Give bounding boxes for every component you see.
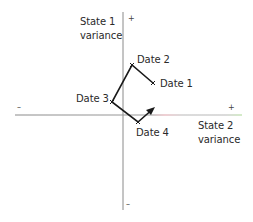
- diagram-canvas: [0, 0, 253, 222]
- vertical-axis-minus-sign: –: [126, 201, 130, 209]
- date-1-marker-icon: [151, 81, 155, 85]
- date-1-label: Date 1: [160, 77, 193, 90]
- vertical-axis-label-line2: variance: [80, 29, 122, 42]
- date-2-label: Date 2: [137, 53, 170, 66]
- horizontal-axis-label-line2: variance: [198, 133, 240, 146]
- date-4-label: Date 4: [136, 126, 169, 139]
- variance-diagram: State 1 variance + – State 2 variance + …: [0, 0, 253, 222]
- vertical-axis-plus-sign: +: [128, 15, 135, 23]
- horizontal-axis-minus-sign: –: [17, 104, 21, 112]
- date-3-label: Date 3: [76, 92, 109, 105]
- trajectory-path: [112, 65, 153, 122]
- vertical-axis-label-line1: State 1: [80, 15, 115, 28]
- date-4-marker-icon: [136, 120, 140, 124]
- horizontal-axis-plus-sign: +: [228, 104, 235, 112]
- horizontal-axis-label-line1: State 2: [198, 119, 233, 132]
